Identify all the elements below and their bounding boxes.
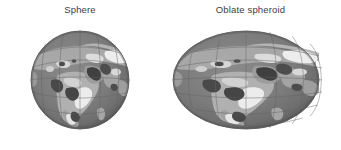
globe-oblate-spheroid-icon <box>170 28 322 132</box>
panel-sphere: Sphere <box>0 0 160 150</box>
globe-wrap-oblate-spheroid <box>160 0 341 150</box>
globe-sphere-icon <box>28 28 132 132</box>
globe-wrap-sphere <box>0 0 160 150</box>
panel-oblate-spheroid: Oblate spheroid <box>160 0 341 150</box>
figure-sphere-vs-oblate-spheroid: Sphere <box>0 0 341 150</box>
